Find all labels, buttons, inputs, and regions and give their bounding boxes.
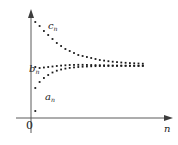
data-point <box>47 74 49 76</box>
series-label-upper: cn <box>48 21 58 31</box>
data-point <box>73 64 75 66</box>
data-point <box>116 65 118 67</box>
data-point <box>129 62 131 64</box>
data-point <box>56 42 58 44</box>
data-point <box>86 56 88 58</box>
data-point <box>65 48 67 50</box>
data-point <box>52 66 54 68</box>
data-point <box>133 62 135 64</box>
series-points-middle <box>34 64 143 69</box>
data-point <box>77 64 79 66</box>
data-point <box>52 72 54 74</box>
data-point <box>86 66 88 68</box>
series-label-lower: an <box>45 92 55 102</box>
data-point <box>39 81 41 83</box>
data-point <box>112 61 114 63</box>
data-point <box>116 61 118 63</box>
data-point <box>60 45 62 47</box>
data-point <box>43 77 45 79</box>
series-label-upper-subscript: n <box>54 25 58 32</box>
data-point <box>82 66 84 68</box>
data-point <box>47 66 49 68</box>
data-point <box>125 62 127 64</box>
y-axis-arrow-icon <box>28 9 34 18</box>
data-point <box>65 64 67 66</box>
data-point <box>60 69 62 71</box>
data-point <box>138 65 140 67</box>
data-point <box>69 50 71 52</box>
sandwich-sequences-figure: 0 n cn bn an <box>0 0 178 145</box>
data-point <box>77 54 79 56</box>
data-point <box>69 64 71 66</box>
data-point <box>34 21 36 23</box>
data-point <box>90 65 92 67</box>
data-point <box>120 65 122 67</box>
series-points-stray-point <box>34 110 36 112</box>
series-points-lower <box>34 65 143 89</box>
data-point <box>82 55 84 57</box>
data-point <box>73 67 75 69</box>
data-point <box>142 65 144 67</box>
data-point <box>82 64 84 66</box>
data-point <box>90 57 92 59</box>
data-point <box>103 60 105 62</box>
origin-label: 0 <box>26 120 33 131</box>
data-point <box>65 68 67 70</box>
data-point <box>142 63 144 65</box>
data-point <box>138 63 140 65</box>
data-point <box>95 65 97 67</box>
data-point <box>129 65 131 67</box>
data-point <box>86 64 88 66</box>
data-point <box>69 67 71 69</box>
data-point <box>34 110 36 112</box>
x-axis-label: n <box>164 124 170 134</box>
x-axis-arrow-icon <box>164 115 173 121</box>
series-label-upper-base: c <box>48 20 54 31</box>
data-point <box>125 65 127 67</box>
data-point <box>56 70 58 72</box>
data-point <box>133 65 135 67</box>
series-label-lower-subscript: n <box>51 96 55 103</box>
data-point <box>77 66 79 68</box>
data-point <box>43 67 45 69</box>
data-point <box>103 65 105 67</box>
data-point <box>60 65 62 67</box>
data-point <box>47 34 49 36</box>
data-point <box>120 62 122 64</box>
data-point <box>108 60 110 62</box>
data-point <box>56 65 58 67</box>
data-point <box>73 52 75 54</box>
data-point <box>99 59 101 61</box>
data-point <box>39 25 41 27</box>
data-point <box>112 65 114 67</box>
data-point <box>99 65 101 67</box>
data-point <box>95 58 97 60</box>
data-point <box>108 65 110 67</box>
data-point <box>52 38 54 40</box>
series-label-middle: bn <box>29 64 39 74</box>
data-point <box>34 87 36 89</box>
data-point <box>43 30 45 32</box>
series-label-middle-subscript: n <box>35 68 39 75</box>
